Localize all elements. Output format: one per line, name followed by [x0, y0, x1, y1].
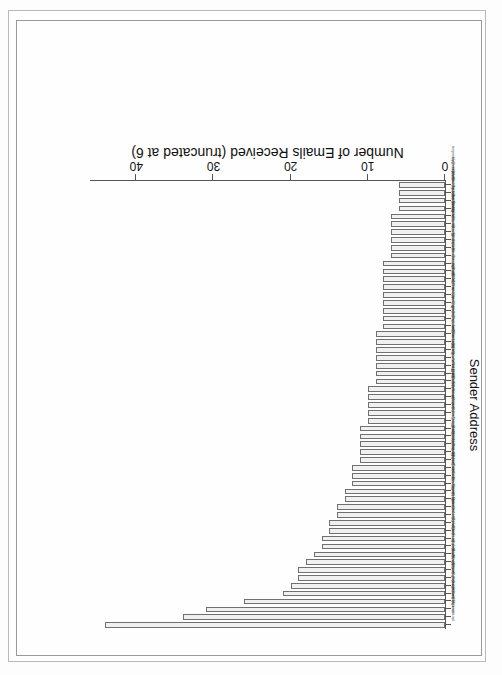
bar-row — [90, 591, 445, 597]
bar-row — [90, 512, 445, 518]
bar-row — [90, 520, 445, 526]
plot-frame: Sender Address tim.one@comcast.netbarnho… — [16, 20, 482, 656]
bar-row — [90, 536, 445, 542]
plot-panel: tim.one@comcast.netbarnhome@black.netpud… — [90, 181, 445, 629]
bar-row — [90, 237, 445, 243]
category-tick — [446, 255, 451, 256]
bar — [391, 229, 445, 235]
bar — [352, 481, 445, 487]
category-tick — [446, 522, 451, 523]
bar-row — [90, 261, 445, 267]
category-tick — [446, 616, 451, 617]
bar — [391, 214, 445, 220]
y-axis-title-text: Sender Address — [467, 359, 482, 452]
category-tick — [446, 561, 451, 562]
bar-row — [90, 567, 445, 573]
value-tick-label: 40 — [130, 159, 143, 173]
bar-series: tim.one@comcast.netbarnhome@black.netpud… — [90, 181, 445, 629]
bar-row — [90, 418, 445, 424]
bar-row — [90, 331, 445, 337]
bar — [298, 567, 445, 573]
bar-row — [90, 622, 445, 628]
bar — [391, 237, 445, 243]
bar — [391, 245, 445, 251]
bar — [360, 449, 445, 455]
bar-row — [90, 441, 445, 447]
scanned-page: Sender Address tim.one@comcast.netbarnho… — [0, 0, 502, 675]
bar — [376, 363, 445, 369]
category-tick — [446, 215, 451, 216]
bar — [368, 394, 445, 400]
bar — [383, 269, 445, 275]
category-tick — [446, 412, 451, 413]
category-tick — [446, 404, 451, 405]
category-tick — [446, 624, 451, 625]
bar-row — [90, 410, 445, 416]
value-tick-label: 0 — [442, 159, 449, 173]
category-tick — [446, 341, 451, 342]
category-tick — [446, 208, 451, 209]
bar — [368, 402, 445, 408]
bar — [314, 552, 445, 558]
category-tick — [446, 514, 451, 515]
bar-row — [90, 269, 445, 275]
bar — [376, 331, 445, 337]
category-tick — [446, 349, 451, 350]
category-tick — [446, 302, 451, 303]
category-tick — [446, 593, 451, 594]
bar — [337, 512, 445, 518]
bar-row — [90, 457, 445, 463]
category-tick — [446, 451, 451, 452]
value-tick — [212, 174, 213, 181]
bar-row — [90, 473, 445, 479]
bar — [244, 599, 445, 605]
bar-row — [90, 245, 445, 251]
bar-row — [90, 300, 445, 306]
bar — [329, 528, 445, 534]
category-tick — [446, 365, 451, 366]
category-tick — [446, 585, 451, 586]
bar-row — [90, 324, 445, 330]
bar-row — [90, 583, 445, 589]
category-tick — [446, 396, 451, 397]
bar — [391, 221, 445, 227]
category-tick — [446, 270, 451, 271]
y-axis-title: Sender Address — [467, 181, 481, 629]
bar-row — [90, 544, 445, 550]
bar — [383, 292, 445, 298]
category-tick — [446, 325, 451, 326]
category-tick — [446, 184, 451, 185]
category-tick — [446, 538, 451, 539]
category-tick — [446, 380, 451, 381]
bar — [383, 324, 445, 330]
bar — [183, 614, 445, 620]
category-tick — [446, 420, 451, 421]
category-tick — [446, 192, 451, 193]
bar-row — [90, 402, 445, 408]
bar — [383, 276, 445, 282]
bar-row — [90, 504, 445, 510]
category-tick — [446, 428, 451, 429]
bar-row — [90, 229, 445, 235]
bar — [306, 559, 445, 565]
bar — [399, 206, 445, 212]
bar — [105, 622, 445, 628]
bar-row — [90, 575, 445, 581]
bar-row — [90, 316, 445, 322]
bar — [399, 198, 445, 204]
category-tick — [446, 490, 451, 491]
bar — [376, 339, 445, 345]
bar-row — [90, 214, 445, 220]
bar — [383, 261, 445, 267]
bar — [368, 386, 445, 392]
category-tick — [446, 569, 451, 570]
category-tick — [446, 467, 451, 468]
bar — [383, 284, 445, 290]
bar-row — [90, 339, 445, 345]
bar — [391, 253, 445, 259]
category-tick — [446, 286, 451, 287]
bar — [376, 379, 445, 385]
bar-row — [90, 449, 445, 455]
category-tick — [446, 483, 451, 484]
bar — [283, 591, 445, 597]
